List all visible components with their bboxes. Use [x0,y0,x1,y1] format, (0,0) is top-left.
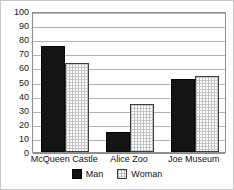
legend-label-woman: Woman [131,169,162,179]
y-tick-label-50: 50 [19,78,29,87]
y-tick-label-100: 100 [14,8,29,17]
y-tick-label-20: 20 [19,120,29,129]
legend-label-man: Man [86,169,104,179]
y-tick-label-80: 80 [19,36,29,45]
plot-area [32,12,226,153]
x-tick-label-0: McQueen Castle [31,154,98,165]
bar-man-0 [41,46,65,152]
legend-entry-man: Man [72,169,104,179]
y-tick-label-70: 70 [19,50,29,59]
legend-entry-woman: Woman [117,169,162,179]
x-axis-labels: McQueen CastleAlice ZooJoe Museum [32,154,226,167]
y-tick-label-40: 40 [19,92,29,101]
y-tick-label-60: 60 [19,64,29,73]
x-tick-label-2: Joe Museum [168,154,220,165]
legend-swatch-woman [117,169,127,179]
bar-chart: 1009080706050403020100 McQueen CastleAli… [0,0,234,190]
y-tick-label-30: 30 [19,106,29,115]
y-tick-label-0: 0 [24,149,29,158]
bar-woman-1 [130,104,154,152]
bars-layer [33,13,225,152]
x-tick-label-1: Alice Zoo [110,154,148,165]
legend-swatch-man [72,169,82,179]
bar-woman-0 [65,63,89,152]
y-tick-label-10: 10 [19,134,29,143]
bar-woman-2 [195,76,219,152]
y-tick-label-90: 90 [19,22,29,31]
bar-man-1 [106,132,130,152]
chart-legend: ManWoman [1,169,233,179]
bar-man-2 [171,79,195,152]
y-axis: 1009080706050403020100 [1,12,29,153]
